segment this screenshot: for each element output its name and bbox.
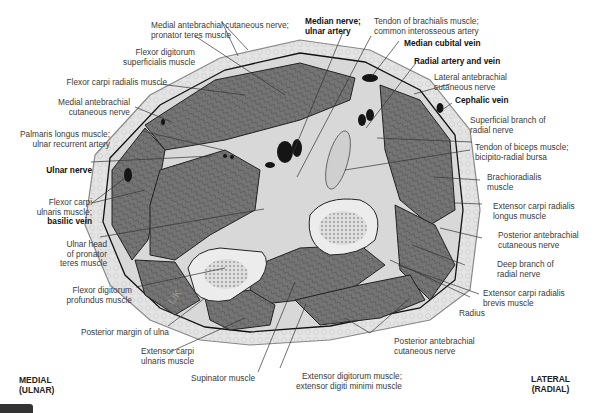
label-brachialis-tendon: Tendon of brachialis muscle; common inte… (374, 17, 479, 36)
orientation-lateral: LATERAL (RADIAL) (531, 374, 570, 394)
label-extensor-carpi-ulnaris: Extensor carpi ulnaris muscle (141, 347, 194, 366)
label-ecrb: Extensor carpi radialis brevis muscle (483, 289, 565, 308)
label-medial-antebrachial-pronator: Medial antebrachial cutaneous nerve; pro… (151, 21, 289, 40)
label-median-nerve: Median nerve; ulnar artery (305, 17, 361, 36)
label-brachioradialis: Brachioradialis muscle (487, 173, 541, 192)
label-ecrl: Extensor carpi radialis longus muscle (493, 202, 575, 221)
label-posterior-antebrachial-right: Posterior antebrachial cutaneous nerve (498, 231, 579, 250)
label-palmaris-longus: Palmaris longus muscle; ulnar recurrent … (20, 130, 110, 149)
label-radial-artery: Radial artery and vein (414, 57, 500, 67)
label-flexor-carpi-ulnaris: Flexor carpi ulnaris muscle; basilic vei… (37, 198, 92, 227)
corner-tab (0, 404, 33, 413)
label-radius: Radius (459, 309, 485, 319)
label-ulnar-nerve: Ulnar nerve (46, 166, 92, 176)
label-medial-antebrachial-cutaneous: Medial antebrachial cutaneous nerve (58, 98, 130, 117)
label-extensor-digitorum: Extensor digitorum muscle; extensor digi… (296, 372, 402, 391)
label-lateral-antebrachial: Lateral antebrachial cutaneous nerve (434, 73, 507, 92)
label-deep-branch-radial: Deep branch of radial nerve (497, 260, 554, 279)
label-flexor-carpi-radialis: Flexor carpi radialis muscle (66, 78, 167, 88)
label-flexor-digitorum-superficialis: Flexor digitorum superficialis muscle (123, 48, 195, 67)
label-flexor-digitorum-profundus: Flexor digitorum profundus muscle (67, 286, 133, 305)
label-superficial-radial: Superficial branch of radial nerve (470, 116, 546, 135)
label-supinator: Supinator muscle (191, 374, 255, 384)
label-median-cubital: Median cubital vein (404, 39, 481, 49)
orientation-medial: MEDIAL (ULNAR) (19, 375, 54, 395)
label-posterior-antebrachial-bottom: Posterior antebrachial cutaneous nerve (394, 337, 475, 356)
label-posterior-margin-ulna: Posterior margin of ulna (81, 328, 169, 338)
label-biceps-tendon: Tendon of biceps muscle; bicipito-radial… (475, 143, 569, 162)
label-ulnar-head-pronator: Ulnar head of pronator teres muscle (60, 240, 107, 269)
label-cephalic-vein: Cephalic vein (455, 96, 509, 106)
